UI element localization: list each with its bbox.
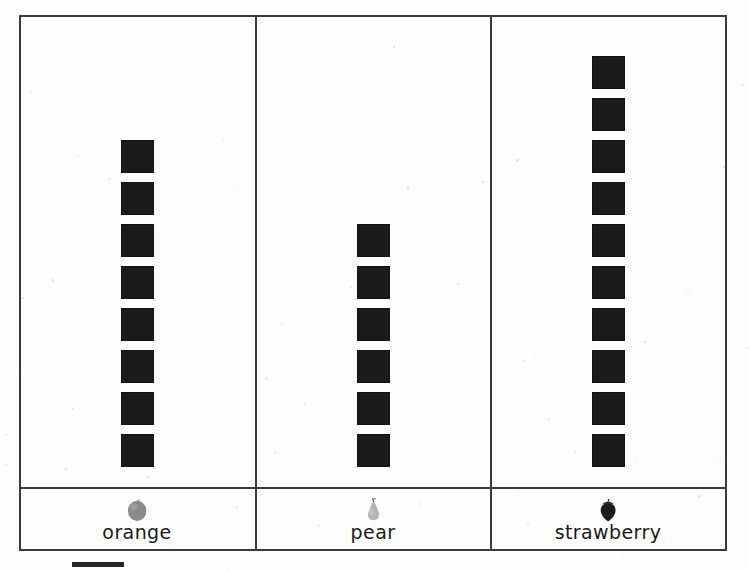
orange-fruit-icon [124,496,150,524]
scan-speck [746,347,748,349]
unit-square [121,392,154,425]
unit-square [357,350,390,383]
unit-square [121,434,154,467]
category-label-row: orange pear strawberry [19,487,727,551]
unit-square [592,350,625,383]
unit-square [121,350,154,383]
unit-square [121,266,154,299]
scan-speck [227,567,229,569]
unit-square [592,56,625,89]
unit-square [121,140,154,173]
unit-square [592,392,625,425]
unit-square [357,308,390,341]
category-label-pear: pear [351,523,396,542]
unit-square [592,182,625,215]
category-label-strawberry: strawberry [555,523,662,542]
unit-square [592,308,625,341]
unit-stack-pear [357,215,390,487]
pictograph-column-pear[interactable] [255,15,491,487]
unit-square [121,308,154,341]
unit-square [357,434,390,467]
scan-speck [88,558,89,559]
plot-area [19,15,727,487]
unit-square [357,266,390,299]
pictograph-column-orange[interactable] [19,15,255,487]
unit-square [592,224,625,257]
scan-speck [732,24,733,25]
pictograph-column-strawberry[interactable] [490,15,726,487]
category-cell-pear[interactable]: pear [255,487,491,551]
unit-square [592,140,625,173]
category-label-orange: orange [102,523,171,542]
unit-square [592,434,625,467]
legend-key-swatch [72,562,124,567]
category-cell-orange[interactable]: orange [19,487,255,551]
unit-square [121,224,154,257]
pear-fruit-icon [360,496,386,524]
scan-speck [5,464,8,467]
unit-stack-orange [121,131,154,487]
scan-speck [742,84,744,86]
unit-square [592,266,625,299]
unit-square [121,182,154,215]
scan-speck [5,434,7,436]
strawberry-fruit-icon [595,496,621,524]
unit-square [357,392,390,425]
category-cell-strawberry[interactable]: strawberry [490,487,726,551]
unit-square [592,98,625,131]
unit-square [357,224,390,257]
scan-speck [623,556,624,557]
unit-stack-strawberry [592,47,625,487]
